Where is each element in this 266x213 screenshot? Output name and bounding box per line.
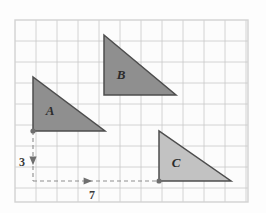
vertical-distance-label: 3 (19, 155, 25, 169)
grid-figure-svg: A B C 3 7 (0, 0, 266, 213)
figure-container: A B C 3 7 (0, 0, 266, 213)
triangle-a-label: A (45, 103, 55, 118)
end-point (156, 178, 161, 183)
horizontal-distance-label: 7 (89, 188, 95, 202)
triangle-b-label: B (116, 67, 126, 82)
triangle-c-label: C (172, 155, 181, 170)
start-point (30, 128, 35, 133)
